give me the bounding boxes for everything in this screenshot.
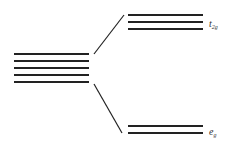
connector-line xyxy=(94,15,124,54)
degenerate-d-levels xyxy=(14,54,89,82)
splitting-connectors xyxy=(94,15,124,133)
t2g-label: t2g xyxy=(209,18,218,30)
connector-line xyxy=(94,84,122,133)
t2g-levels xyxy=(128,15,203,29)
eg-label: eg xyxy=(209,126,216,138)
crystal-field-diagram: t2g eg xyxy=(0,0,235,145)
eg-levels xyxy=(128,126,203,133)
